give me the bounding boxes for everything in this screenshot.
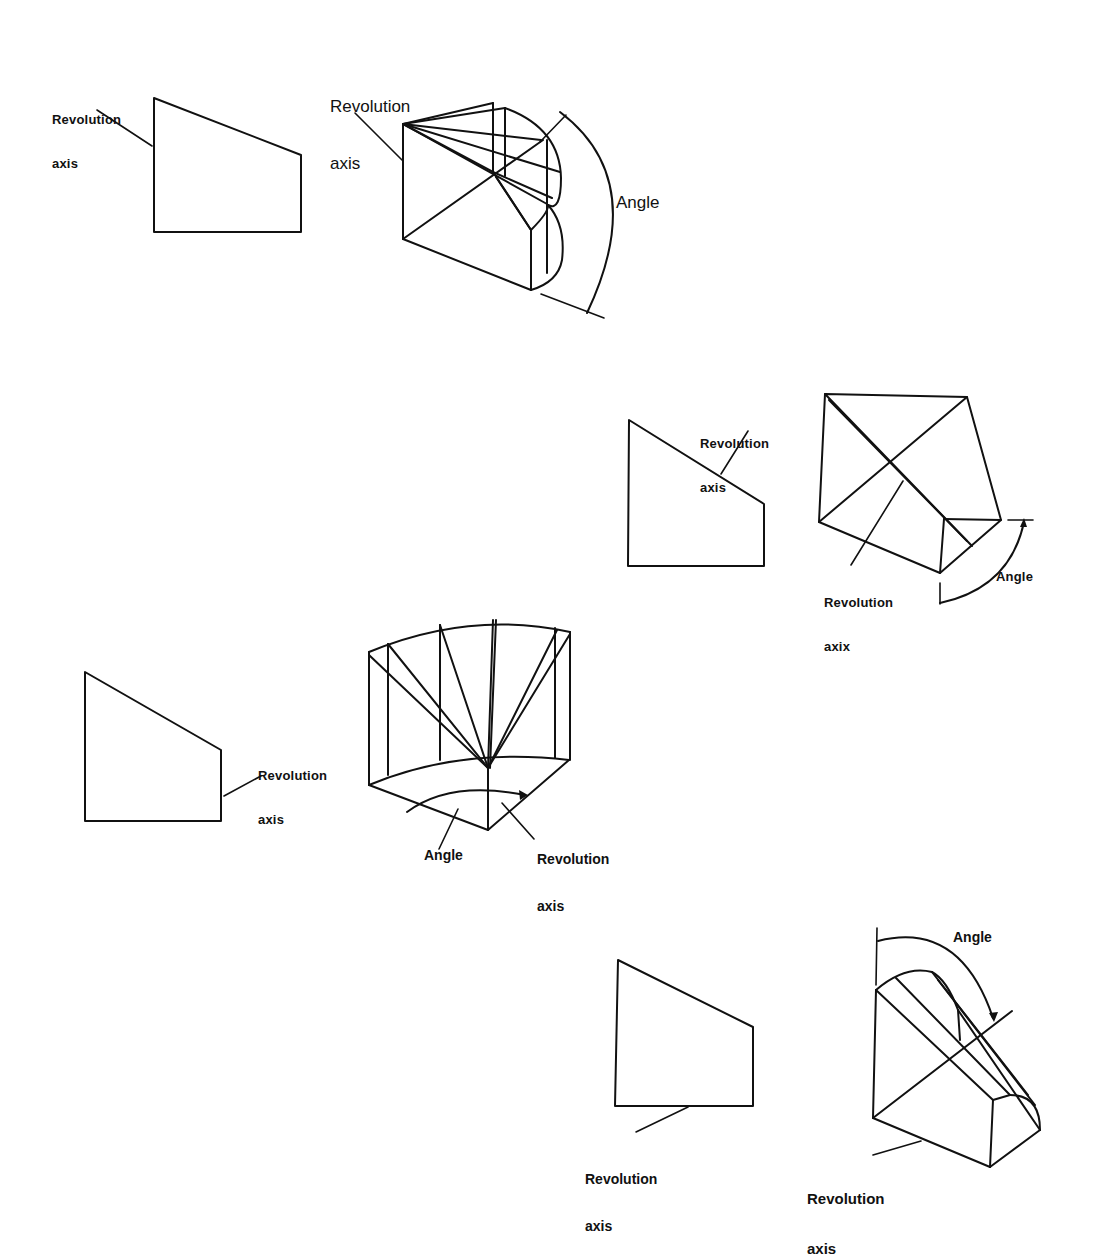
revolution-axis-label: Revolution axis [807, 1157, 885, 1257]
angle-label: Angle [616, 193, 659, 212]
revolved-solid-4 [873, 928, 1040, 1167]
label-line: axis [537, 899, 609, 915]
example-4 [615, 928, 1040, 1167]
label-line: Revolution [585, 1172, 657, 1188]
angle-label: Angle [424, 848, 463, 864]
label-line: axix [824, 640, 893, 655]
revolution-axis-label: Revolution axix [824, 567, 893, 669]
label-line: Revolution [824, 596, 893, 611]
label-line: axis [700, 481, 769, 496]
profile-shape-1 [97, 98, 301, 232]
profile-shape-3 [85, 672, 261, 821]
label-line: axis [258, 813, 327, 828]
leader-line [636, 1107, 688, 1132]
revolved-solid-3 [369, 620, 570, 849]
label-line: axis [585, 1219, 657, 1235]
label-line: Revolution [700, 437, 769, 452]
revolution-axis-label: Revolution axis [585, 1141, 657, 1251]
label-line: axis [330, 154, 410, 173]
example-3 [85, 620, 570, 849]
angle-label: Angle [996, 570, 1033, 585]
angle-label: Angle [953, 930, 992, 946]
revolution-axis-label: Revolution axis [258, 740, 327, 842]
label-line: Revolution [258, 769, 327, 784]
label-line: Revolution [807, 1191, 885, 1208]
profile-shape-4 [615, 960, 753, 1132]
revolution-axis-label: Revolution axis [330, 59, 410, 192]
revolution-axis-label: Revolution axis [537, 821, 609, 931]
revolution-axis-label: Revolution axis [700, 408, 769, 510]
revolution-diagram [0, 0, 1104, 1257]
leader-line [224, 776, 261, 796]
label-line: Revolution [537, 852, 609, 868]
revolution-axis-label: Revolution axis [52, 84, 121, 186]
label-line: Revolution [330, 97, 410, 116]
label-line: Revolution [52, 113, 121, 128]
label-line: axis [52, 157, 121, 172]
label-line: axis [807, 1241, 885, 1257]
